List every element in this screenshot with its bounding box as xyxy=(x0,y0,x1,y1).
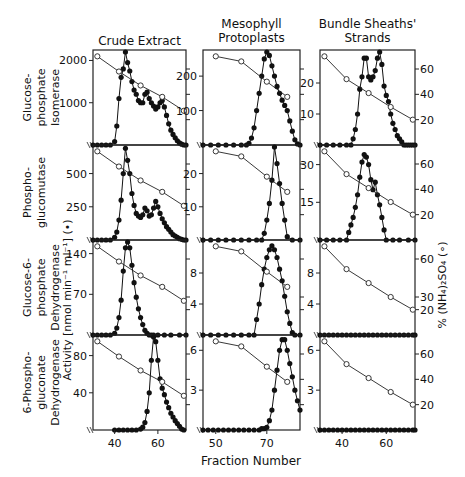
sulfate-point xyxy=(264,269,269,274)
right-tick-label: 30 xyxy=(420,291,434,304)
row-label: 6-Phospho- xyxy=(21,352,34,414)
activity-point xyxy=(285,108,290,113)
activity-point xyxy=(390,121,395,126)
activity-point xyxy=(264,217,269,222)
sulfate-point xyxy=(410,402,415,407)
activity-point xyxy=(121,171,126,176)
activity-point xyxy=(166,405,171,410)
activity-point xyxy=(359,159,364,164)
activity-point xyxy=(129,263,134,268)
column-title: Mesophyll xyxy=(221,17,281,31)
panel-frame xyxy=(93,240,186,335)
y-tick-label: 250 xyxy=(66,201,87,214)
activity-point xyxy=(264,255,269,260)
activity-point xyxy=(140,425,145,430)
activity-point xyxy=(114,325,119,330)
sulfate-point xyxy=(366,90,371,95)
activity-point xyxy=(249,136,254,141)
activity-point xyxy=(355,111,360,116)
activity-point xyxy=(246,427,251,432)
activity-point xyxy=(412,427,417,432)
activity-point xyxy=(140,322,145,327)
panel: 40804060 xyxy=(73,334,190,450)
sulfate-point xyxy=(95,54,100,59)
activity-point xyxy=(267,53,272,58)
activity-point xyxy=(129,191,134,196)
right-tick-label: 20 xyxy=(420,114,434,127)
panel: 48 xyxy=(190,240,304,338)
panel: 70140 xyxy=(66,239,190,338)
sulfate-point xyxy=(213,54,218,59)
sulfate-point xyxy=(160,94,165,99)
y-tick-label: 6 xyxy=(307,344,314,357)
activity-point xyxy=(121,268,126,273)
row-label: phosphate xyxy=(35,258,48,316)
y-tick-label: 20 xyxy=(183,168,197,181)
activity-point xyxy=(269,63,274,68)
activity-point xyxy=(287,321,292,326)
activity-point xyxy=(123,49,128,54)
y-tick-label: 15 xyxy=(300,196,314,209)
right-tick-label: 60 xyxy=(420,158,434,171)
y-tick-label: 6 xyxy=(190,344,197,357)
activity-point xyxy=(373,180,378,185)
activity-point xyxy=(211,427,216,432)
panel-frame xyxy=(320,240,415,335)
sulfate-point xyxy=(322,149,327,154)
multi-panel-fractionation-chart: Crude ExtractMesophyllProtoplastsBundle … xyxy=(0,0,465,477)
right-tick-label: 60 xyxy=(420,63,434,76)
activity-point xyxy=(348,222,353,227)
activity-point xyxy=(119,75,124,80)
sulfate-point xyxy=(95,149,100,154)
panel: 362040604060 xyxy=(307,335,434,450)
sulfate-point xyxy=(264,364,269,369)
activity-point xyxy=(353,205,358,210)
column-title: Strands xyxy=(344,31,390,45)
activity-point xyxy=(355,192,360,197)
sulfate-point xyxy=(116,69,121,74)
activity-point xyxy=(272,388,277,393)
sulfate-point xyxy=(116,259,121,264)
activity-point xyxy=(287,361,292,366)
sulfate-point xyxy=(181,298,186,303)
panel: 10002000 xyxy=(59,49,190,148)
activity-point xyxy=(155,204,160,209)
sulfate-point xyxy=(138,273,143,278)
sulfate-point xyxy=(181,393,186,398)
activity-point xyxy=(125,60,130,65)
activity-point xyxy=(368,177,373,182)
activity-point xyxy=(254,317,259,322)
activity-point xyxy=(377,202,382,207)
activity-point xyxy=(282,103,287,108)
y-tick-label: 8 xyxy=(307,267,314,280)
right-tick-label: 20 xyxy=(420,209,434,222)
sulfate-point xyxy=(138,368,143,373)
activity-point xyxy=(287,118,292,123)
activity-point xyxy=(140,100,145,105)
activity-point xyxy=(144,409,149,414)
y-tick-label: 2000 xyxy=(59,54,87,67)
activity-line xyxy=(93,242,186,335)
activity-point xyxy=(375,56,380,61)
activity-point xyxy=(274,161,279,166)
activity-point xyxy=(114,123,119,128)
activity-point xyxy=(134,427,139,432)
sulfate-point xyxy=(285,189,290,194)
right-tick-label: 40 xyxy=(420,183,434,196)
activity-point xyxy=(149,212,154,217)
activity-point xyxy=(267,201,272,206)
y-tick-label: 3 xyxy=(307,384,314,397)
activity-point xyxy=(377,49,382,54)
y-tick-label: 100 xyxy=(176,105,197,118)
column-title: Crude Extract xyxy=(98,34,181,48)
activity-point xyxy=(116,315,121,320)
sulfate-point xyxy=(322,244,327,249)
activity-point xyxy=(153,199,158,204)
activity-point xyxy=(160,386,165,391)
row-label: Glucose-6- xyxy=(21,258,34,317)
activity-point xyxy=(364,154,369,159)
activity-point xyxy=(282,337,287,342)
activity-point xyxy=(295,398,300,403)
y-tick-label: 500 xyxy=(66,168,87,181)
activity-point xyxy=(155,358,160,363)
